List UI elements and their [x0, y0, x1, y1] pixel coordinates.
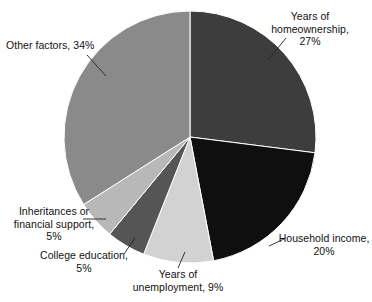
slice-label-unemployment: Years of unemployment, 9% [122, 268, 234, 293]
label-line: Inheritances or [19, 205, 89, 217]
pie-chart-figure: Years of homeownership, 27% Other factor… [0, 0, 372, 302]
label-line: Years of [291, 10, 330, 22]
slice-label-other-factors: Other factors, 34% [6, 39, 166, 52]
slice-label-inheritances: Inheritances or financial support, 5% [2, 205, 106, 243]
slice-label-homeownership: Years of homeownership, 27% [258, 10, 362, 48]
label-line: 20% [313, 245, 334, 257]
label-line: 27% [299, 35, 320, 47]
label-line: financial support, [14, 218, 94, 230]
label-line: 5% [76, 262, 91, 274]
label-line: College education, [40, 249, 128, 261]
label-line: Years of [159, 268, 198, 280]
label-line: homeownership, [271, 23, 349, 35]
slice-label-household-income: Household income, 20% [276, 232, 372, 257]
label-line: Other factors, 34% [6, 39, 94, 51]
label-line: 5% [46, 230, 61, 242]
label-line: Household income, [279, 232, 370, 244]
label-line: unemployment, 9% [133, 281, 224, 293]
